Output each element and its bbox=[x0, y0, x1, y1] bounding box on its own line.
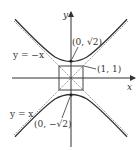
asymptote-label-x: y = x bbox=[9, 109, 33, 119]
x-axis-label: x bbox=[127, 82, 132, 92]
vertex-bottom-point bbox=[69, 93, 72, 96]
asymptote-label-neg-x: y = −x bbox=[12, 50, 44, 60]
plot-canvas: y x (0, √2) (0, −√2) (1, 1) y = −x y = x bbox=[0, 0, 140, 150]
leader-corner-1-1 bbox=[84, 66, 96, 69]
y-axis-label: y bbox=[62, 10, 69, 20]
leader-bottom-vertex bbox=[62, 97, 70, 118]
point-label-top-vertex: (0, √2) bbox=[72, 37, 102, 47]
leader-top-vertex bbox=[72, 47, 78, 59]
point-label-corner: (1, 1) bbox=[97, 64, 121, 74]
vertex-top-point bbox=[69, 59, 72, 62]
point-label-bottom-vertex: (0, −√2) bbox=[34, 119, 71, 129]
hyperbola-diagram: y x (0, √2) (0, −√2) (1, 1) y = −x y = x bbox=[0, 0, 140, 150]
